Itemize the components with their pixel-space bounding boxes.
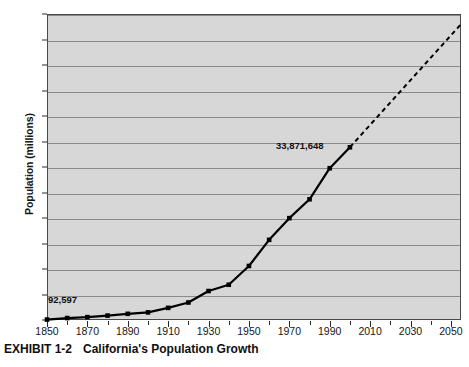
gridline [48,219,460,220]
gridline [48,270,460,271]
figure-caption-title: California's Population Growth [83,342,259,356]
y-tick-mark [42,218,47,219]
y-tick-mark [42,269,47,270]
y-tick-mark [42,243,47,244]
gridline [48,117,460,118]
gridline [48,66,460,67]
chart-plot-area [47,14,461,320]
gridline [48,194,460,195]
y-tick-mark [42,294,47,295]
population-growth-figure: Population (millions) 051015202530354045… [0,0,469,367]
gridline [48,15,460,16]
y-tick-mark [42,90,47,91]
gridline [48,245,460,246]
y-tick-mark [42,14,47,15]
y-tick-mark [42,167,47,168]
gridline [48,168,460,169]
gridline [48,296,460,297]
annotation-2000-value: 33,871,648 [276,140,324,151]
gridline [48,92,460,93]
y-tick-mark [42,141,47,142]
figure-caption: EXHIBIT 1-2California's Population Growt… [4,342,259,356]
x-tick-label: 2050 [426,325,469,337]
gridline [48,41,460,42]
y-tick-mark [42,116,47,117]
y-axis-title: Population (millions) [23,84,35,244]
y-tick-mark [42,192,47,193]
y-tick-mark [42,65,47,66]
figure-caption-label: EXHIBIT 1-2 [4,342,72,356]
y-tick-mark [42,39,47,40]
gridline [48,143,460,144]
annotation-1850-value: 92,597 [48,294,77,305]
